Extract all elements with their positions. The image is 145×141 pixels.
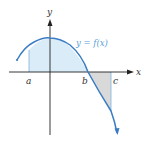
area-under-curve-diagram: y x y = f(x) a b c <box>0 0 145 141</box>
point-b-label: b <box>82 76 88 86</box>
y-axis-label: y <box>46 7 53 17</box>
point-a-label: a <box>26 76 31 86</box>
x-axis-label: x <box>136 67 141 77</box>
curve-label: y = f(x) <box>75 38 108 48</box>
x-axis-arrow-icon <box>127 70 134 75</box>
diagram-svg: y x y = f(x) a b c <box>0 0 145 141</box>
curve-end-arrow-icon <box>115 128 120 135</box>
curve-start-point <box>16 59 18 61</box>
point-c-label: c <box>113 76 118 86</box>
y-axis-arrow-icon <box>48 19 53 26</box>
